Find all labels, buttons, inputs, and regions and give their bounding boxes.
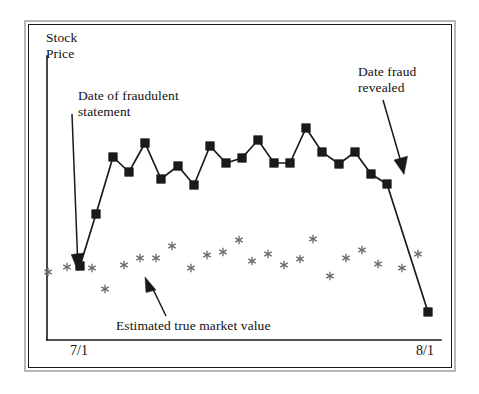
annotation-arrow-fraud-statement <box>71 114 84 271</box>
estimated-value-asterisk <box>203 251 210 260</box>
stock-price-marker <box>190 181 199 190</box>
annotation-label-estimated-value: Estimated true market value <box>116 318 271 334</box>
estimated-value-asterisk <box>168 242 175 251</box>
estimated-value-asterisk <box>374 260 381 269</box>
estimated-value-asterisk <box>326 272 333 281</box>
estimated-value-asterisk <box>398 264 405 273</box>
stock-price-marker <box>318 148 327 157</box>
y-axis-label-line1: Stock <box>46 30 77 45</box>
estimated-value-asterisk <box>235 236 242 245</box>
estimated-value-asterisk <box>280 261 287 270</box>
stock-price-line <box>80 128 428 312</box>
stock-price-marker <box>286 159 295 168</box>
stock-price-markers <box>76 124 433 317</box>
stock-price-marker <box>383 180 392 189</box>
stock-price-marker <box>174 162 183 171</box>
estimated-value-asterisk <box>342 254 349 263</box>
stock-price-marker <box>367 170 376 179</box>
annotation-fraud-revealed-line2: revealed <box>358 80 405 95</box>
stock-price-marker <box>335 160 344 169</box>
annotation-fraud-revealed-line1: Date fraud <box>358 64 416 79</box>
stock-price-marker <box>351 148 360 157</box>
stock-price-marker <box>254 136 263 145</box>
stock-price-marker <box>125 168 134 177</box>
annotation-label-fraud-statement: Date of fraudulentstatement <box>78 88 179 121</box>
stock-price-marker <box>222 159 231 168</box>
stock-price-marker <box>270 159 279 168</box>
estimated-value-asterisk <box>358 246 365 255</box>
estimated-value-asterisk <box>187 264 194 273</box>
stock-price-marker <box>302 124 311 133</box>
estimated-value-asterisk <box>296 255 303 264</box>
annotation-arrow-fraud-revealed <box>383 100 408 175</box>
annotation-fraud-statement-line2: statement <box>78 104 131 119</box>
y-axis-label-line2: Price <box>46 46 74 61</box>
estimated-value-asterisk <box>63 263 70 272</box>
estimated-value-asterisk <box>101 285 108 294</box>
x-axis-tick-label-left: 7/1 <box>70 342 88 359</box>
y-axis-label: StockPrice <box>46 30 77 63</box>
estimated-value-asterisk <box>120 261 127 270</box>
estimated-value-asterisk <box>248 257 255 266</box>
estimated-value-asterisk <box>264 250 271 259</box>
estimated-value-markers <box>44 235 421 294</box>
stock-price-marker <box>92 210 101 219</box>
estimated-value-asterisk <box>309 235 316 244</box>
estimated-value-asterisk <box>414 250 421 259</box>
stock-price-marker <box>424 308 433 317</box>
stock-price-marker <box>109 153 118 162</box>
annotation-label-fraud-revealed: Date fraudrevealed <box>358 64 416 97</box>
estimated-value-asterisk <box>152 254 159 263</box>
x-axis-tick-label-right: 8/1 <box>416 342 434 359</box>
stock-price-marker <box>206 142 215 151</box>
estimated-value-asterisk <box>44 268 51 277</box>
estimated-value-asterisk <box>219 248 226 257</box>
estimated-value-asterisk <box>88 264 95 273</box>
stock-price-marker <box>157 175 166 184</box>
annotation-arrow-estimated-value <box>145 277 166 316</box>
figure-root: StockPrice Date of fraudulentstatement D… <box>0 0 479 394</box>
stock-price-marker <box>141 139 150 148</box>
annotation-fraud-statement-line1: Date of fraudulent <box>78 88 179 103</box>
estimated-value-asterisk <box>136 254 143 263</box>
stock-price-marker <box>238 154 247 163</box>
